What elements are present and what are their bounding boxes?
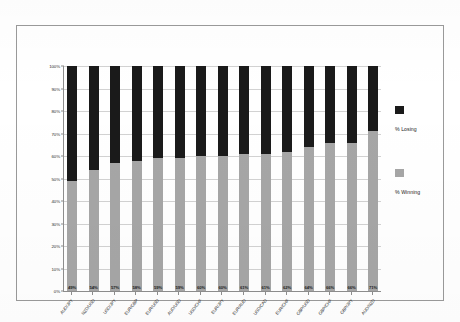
bar-segment-winning[interactable]: 66% <box>347 143 357 292</box>
x-axis-label-slot: AUD/USD <box>174 296 184 322</box>
legend-label: % Losing <box>395 126 417 132</box>
x-axis-category-label-text: NZD/USD <box>80 298 96 316</box>
x-axis-category-label-text: AUD/NZD <box>360 298 376 316</box>
bar-segment-winning[interactable]: 57% <box>110 163 120 291</box>
x-axis-category-label-text: GBP/CHF <box>317 298 333 316</box>
bar-segment-winning[interactable]: 61% <box>261 154 271 291</box>
bar-column[interactable]: 61% <box>239 66 249 291</box>
y-axis-tick-label: 100% <box>49 64 60 69</box>
bar-data-label: 66% <box>326 285 334 290</box>
x-axis-label-slot: EUR/USD <box>152 296 162 322</box>
x-axis-category-label-text: EUR/AUD <box>231 298 247 316</box>
bar-data-label: 57% <box>111 285 119 290</box>
bar-segment-winning[interactable]: 61% <box>239 154 249 291</box>
bar-segment-losing[interactable] <box>239 66 249 154</box>
x-axis-label-slot: NZD/USD <box>88 296 98 322</box>
y-axis-tick-label: 90% <box>52 86 61 91</box>
x-axis-label-slot: USD/JPY <box>109 296 119 322</box>
bar-data-label: 60% <box>219 285 227 290</box>
bar-column[interactable]: 71% <box>368 66 378 291</box>
bar-column[interactable]: 59% <box>175 66 185 291</box>
bar-data-label: 66% <box>348 285 356 290</box>
y-axis-tick-label: 50% <box>52 176 61 181</box>
bar-data-label: 71% <box>369 285 377 290</box>
bar-segment-winning[interactable]: 54% <box>89 170 99 292</box>
chart-legend: % Losing% Winning <box>395 106 457 232</box>
bar-column[interactable]: 58% <box>132 66 142 291</box>
bar-segment-winning[interactable]: 59% <box>175 158 185 291</box>
x-axis-label-slot: USD/CHF <box>195 296 205 322</box>
bar-segment-winning[interactable]: 60% <box>196 156 206 291</box>
y-axis-tick-label: 60% <box>52 154 61 159</box>
bar-column[interactable]: 66% <box>325 66 335 291</box>
bar-segment-winning[interactable]: 59% <box>153 158 163 291</box>
legend-entry[interactable]: % Losing <box>395 106 457 135</box>
bar-column[interactable]: 64% <box>304 66 314 291</box>
bar-segment-losing[interactable] <box>304 66 314 147</box>
bar-segment-losing[interactable] <box>325 66 335 143</box>
bar-segment-winning[interactable]: 62% <box>282 152 292 292</box>
bar-segment-losing[interactable] <box>110 66 120 163</box>
bar-data-label: 59% <box>176 285 184 290</box>
y-axis-tick-label: 20% <box>52 244 61 249</box>
bar-segment-winning[interactable]: 71% <box>368 131 378 291</box>
bar-data-label: 58% <box>133 285 141 290</box>
legend-entry[interactable]: % Winning <box>395 169 457 198</box>
chart-frame: 100%90%80%70%60%50%40%30%20%10%0% 49%54%… <box>16 25 444 301</box>
bar-data-label: 54% <box>90 285 98 290</box>
bar-segment-losing[interactable] <box>89 66 99 170</box>
legend-color-swatch <box>395 106 404 114</box>
bar-segment-losing[interactable] <box>153 66 163 158</box>
bar-column[interactable]: 66% <box>347 66 357 291</box>
y-axis-tick-label: 40% <box>52 199 61 204</box>
bar-column[interactable]: 57% <box>110 66 120 291</box>
bar-segment-winning[interactable]: 58% <box>132 161 142 292</box>
bar-segment-losing[interactable] <box>261 66 271 154</box>
bar-column[interactable]: 49% <box>67 66 77 291</box>
bar-column[interactable]: 54% <box>89 66 99 291</box>
y-axis-tick-label: 10% <box>52 266 61 271</box>
bar-data-label: 60% <box>197 285 205 290</box>
bar-segment-losing[interactable] <box>282 66 292 152</box>
x-axis-label-slot: AUD/NZD <box>368 296 378 322</box>
bar-segment-losing[interactable] <box>132 66 142 161</box>
bar-segment-losing[interactable] <box>67 66 77 181</box>
bar-segment-winning[interactable]: 60% <box>218 156 228 291</box>
x-axis-label-slot: AUD/JPY <box>66 296 76 322</box>
x-axis-category-label-text: USD/CHF <box>188 298 204 316</box>
bar-column[interactable]: 59% <box>153 66 163 291</box>
x-axis-category-labels: AUD/JPYNZD/USDUSD/JPYEUR/GBPEUR/USDAUD/U… <box>63 296 381 322</box>
bar-data-label: 49% <box>68 285 76 290</box>
bar-segment-losing[interactable] <box>196 66 206 156</box>
bar-column[interactable]: 62% <box>282 66 292 291</box>
bar-data-label: 64% <box>305 285 313 290</box>
bar-series-group: 49%54%57%58%59%59%60%60%61%61%62%64%66%6… <box>64 66 381 291</box>
bar-segment-losing[interactable] <box>368 66 378 131</box>
x-axis-category-label-text: EUR/JPY <box>210 298 225 315</box>
bar-data-label: 62% <box>283 285 291 290</box>
y-axis-tick-label: 0% <box>54 289 60 294</box>
x-axis-label-slot: EUR/GBP <box>131 296 141 322</box>
bar-segment-losing[interactable] <box>218 66 228 156</box>
x-axis-category-label-text: GBP/USD <box>295 298 311 316</box>
bar-segment-losing[interactable] <box>175 66 185 158</box>
bar-segment-winning[interactable]: 64% <box>304 147 314 291</box>
legend-label: % Winning <box>395 189 420 195</box>
bar-column[interactable]: 60% <box>218 66 228 291</box>
bar-segment-losing[interactable] <box>347 66 357 143</box>
x-axis-category-label-text: EUR/USD <box>145 298 161 316</box>
bar-segment-winning[interactable]: 66% <box>325 143 335 292</box>
bar-data-label: 61% <box>240 285 248 290</box>
y-axis-tick-label: 80% <box>52 109 61 114</box>
x-axis-category-label-text: EUR/GBP <box>123 298 139 316</box>
x-axis-category-label-text: USD/CAD <box>252 298 268 316</box>
x-axis-label-slot: EUR/AUD <box>239 296 249 322</box>
y-axis-tick-label: 30% <box>52 221 61 226</box>
bar-column[interactable]: 61% <box>261 66 271 291</box>
bar-column[interactable]: 60% <box>196 66 206 291</box>
bar-segment-winning[interactable]: 49% <box>67 181 77 291</box>
bar-data-label: 61% <box>262 285 270 290</box>
x-axis-category-label-text: GBP/JPY <box>339 298 354 315</box>
x-axis-label-slot: EUR/JPY <box>217 296 227 322</box>
chart-screenshot: 100%90%80%70%60%50%40%30%20%10%0% 49%54%… <box>0 0 460 322</box>
